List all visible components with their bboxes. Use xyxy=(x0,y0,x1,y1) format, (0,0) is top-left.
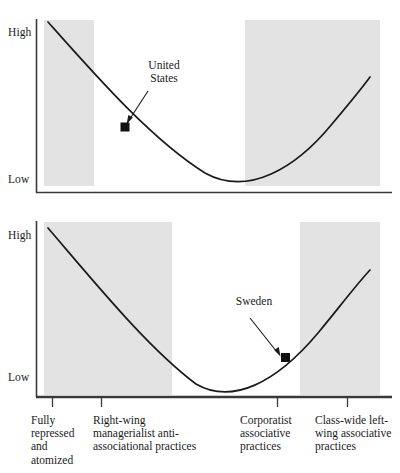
annotation-arrow-line-bottom xyxy=(250,318,277,352)
y-axis-high-label-top: High xyxy=(8,26,31,38)
annotation-label-sweden: Sweden xyxy=(228,295,280,308)
x-category-label-4: Class-wide left- wing associative practi… xyxy=(315,414,399,454)
annotation-label-united-states: United States xyxy=(133,59,195,84)
top-chart-svg xyxy=(0,0,400,200)
annotation-arrow-head-bottom xyxy=(274,347,280,357)
shaded-band-right-top xyxy=(245,20,380,186)
chart-panel-bottom: High Low Sweden xyxy=(0,205,400,400)
bottom-chart-svg xyxy=(0,205,400,400)
y-axis-low-label-bottom: Low xyxy=(8,371,29,383)
shaded-band-right-bottom xyxy=(300,222,380,395)
annotation-arrow-line-top xyxy=(130,91,149,120)
chart-panel-top: High Low United States xyxy=(0,0,400,200)
y-axis-low-label-top: Low xyxy=(8,173,29,185)
y-axis-high-label-bottom: High xyxy=(8,229,31,241)
data-point-marker-sweden[interactable] xyxy=(281,353,290,362)
figure-container: High Low United States High Low Sweden xyxy=(0,0,400,473)
shaded-band-left-bottom xyxy=(44,222,172,395)
x-category-label-1: Fully repressed and atomized xyxy=(31,414,93,467)
x-category-label-3: Corporatist associative practices xyxy=(240,414,312,454)
x-axis-ticks-svg xyxy=(0,392,400,414)
x-category-label-2: Right-wing managerialist anti- associati… xyxy=(93,414,235,454)
x-axis-category-area: Fully repressed and atomized Right-wing … xyxy=(0,392,400,473)
data-point-marker-united-states[interactable] xyxy=(121,123,130,132)
